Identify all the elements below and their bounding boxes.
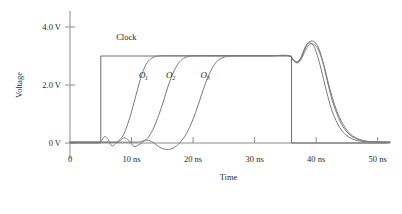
curve-label-sub-1: 1 bbox=[145, 75, 148, 81]
y-tick-label-2: 4.0 V bbox=[42, 22, 62, 32]
x-tick-label-2: 20 ns bbox=[184, 154, 202, 164]
waveform-o3 bbox=[70, 44, 390, 150]
x-tick-label-4: 40 ns bbox=[307, 154, 325, 164]
waveform-chart: 0 V2.0 V4.0 V010 ns20 ns30 ns40 ns50 nsT… bbox=[0, 0, 402, 214]
waveform-clock bbox=[70, 56, 390, 143]
x-tick-label-5: 50 ns bbox=[369, 154, 387, 164]
x-axis-title: Time bbox=[220, 172, 238, 182]
x-tick-label-0: 0 bbox=[68, 154, 72, 164]
curve-label-o3: O3 bbox=[200, 70, 209, 82]
y-tick-label-0: 0 V bbox=[49, 138, 62, 148]
clock-label: Clock bbox=[116, 32, 137, 42]
y-tick-label-1: 2.0 V bbox=[42, 80, 62, 90]
y-axis-title-group: Voltage bbox=[14, 72, 24, 98]
x-tick-label-3: 30 ns bbox=[246, 154, 264, 164]
curve-label-o1: O1 bbox=[139, 70, 148, 82]
curve-label-sub-3: 3 bbox=[206, 75, 210, 81]
waveform-o1 bbox=[70, 43, 390, 146]
curve-label-sub-2: 2 bbox=[172, 75, 175, 81]
y-axis-title: Voltage bbox=[14, 72, 24, 98]
x-tick-label-1: 10 ns bbox=[122, 154, 140, 164]
